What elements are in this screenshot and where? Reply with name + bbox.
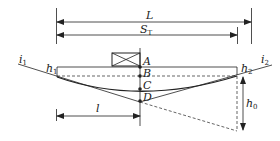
i1-extension-dashed xyxy=(140,102,237,131)
h0-label: h0 xyxy=(246,97,258,111)
label-D: D xyxy=(142,91,152,104)
i2-label: i2 xyxy=(261,53,269,67)
i1-label: i1 xyxy=(19,53,27,67)
h2-label: h2 xyxy=(241,62,253,76)
point-A xyxy=(138,65,142,69)
l-label: l xyxy=(96,102,100,115)
point-C xyxy=(138,87,142,91)
L-label: L xyxy=(145,9,153,22)
h1-label: h1 xyxy=(46,62,58,76)
point-B xyxy=(138,74,142,78)
ST-label: ST xyxy=(140,23,153,37)
point-D xyxy=(138,99,142,103)
vertical-curve-diagram: L ST A B C D i1 i2 h1 h2 h0 l xyxy=(0,0,280,141)
